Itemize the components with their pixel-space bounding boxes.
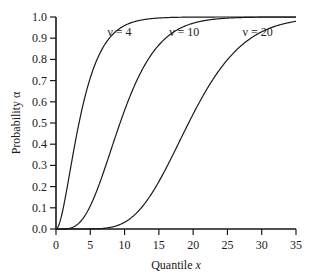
x-tick-label: 25 [221, 238, 233, 252]
y-tick-label: 1.0 [32, 10, 47, 24]
y-axis-title: Probability α [9, 91, 23, 154]
curve-labels: ν = 4ν = 10ν = 20 [107, 25, 272, 39]
curve-label-dof-4: ν = 4 [107, 25, 131, 39]
y-tick-label: 0.9 [32, 31, 47, 45]
y-tick-label: 0.6 [32, 95, 47, 109]
y-tick-label: 0.4 [32, 137, 47, 151]
y-axis-ticks: 0.00.10.20.30.40.50.60.70.80.91.0 [32, 10, 56, 236]
curve-label-dof-20: ν = 20 [243, 25, 273, 39]
y-tick-label: 0.3 [32, 158, 47, 172]
x-tick-label: 0 [53, 238, 59, 252]
y-tick-label: 0.2 [32, 180, 47, 194]
x-tick-label: 30 [256, 238, 268, 252]
y-tick-label: 0.7 [32, 74, 47, 88]
x-tick-label: 5 [87, 238, 93, 252]
chi-square-cdf-chart: 0.00.10.20.30.40.50.60.70.80.91.0 051015… [0, 0, 311, 276]
axes-frame [56, 17, 296, 229]
x-axis-title-main: Quantile [151, 258, 195, 272]
curve-dof-20 [56, 21, 296, 229]
curve-dof-10 [56, 17, 296, 229]
curves [56, 17, 296, 229]
x-tick-label: 15 [153, 238, 165, 252]
x-tick-label: 35 [290, 238, 302, 252]
x-axis-title-variable: x [195, 258, 202, 272]
x-tick-label: 10 [119, 238, 131, 252]
x-axis-title: Quantile x [151, 258, 201, 272]
curve-label-dof-10: ν = 10 [169, 25, 199, 39]
y-tick-label: 0.5 [32, 116, 47, 130]
y-tick-label: 0.0 [32, 222, 47, 236]
y-tick-label: 0.8 [32, 52, 47, 66]
y-tick-label: 0.1 [32, 201, 47, 215]
x-tick-label: 20 [187, 238, 199, 252]
x-axis-ticks: 05101520253035 [53, 229, 302, 252]
curve-dof-4 [56, 17, 296, 229]
